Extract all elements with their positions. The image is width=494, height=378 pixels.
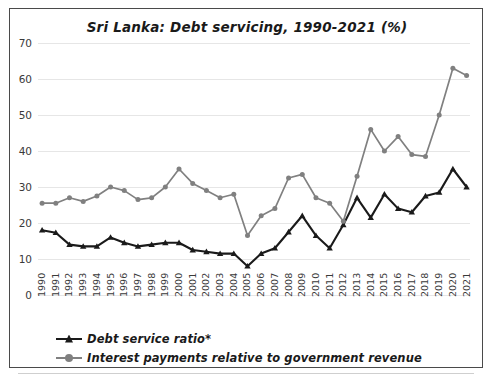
legend-item-debt-service-ratio: Debt service ratio* <box>56 329 456 348</box>
data-point <box>355 174 360 179</box>
x-axis-tick-label: 2017 <box>407 273 417 297</box>
x-axis-tick-label: 2008 <box>284 273 294 297</box>
x-axis-tick-label: 2012 <box>339 273 349 297</box>
data-point <box>341 219 346 224</box>
chart-title: Sri Lanka: Debt servicing, 1990-2021 (%) <box>10 19 484 35</box>
x-axis-tick-label: 2003 <box>215 273 225 297</box>
x-axis-tick-label: 1993 <box>78 273 88 297</box>
data-point <box>190 181 195 186</box>
data-point <box>381 191 387 197</box>
data-point <box>272 206 277 211</box>
legend-label: Interest payments relative to government… <box>87 351 422 365</box>
data-point <box>177 167 182 172</box>
data-point <box>107 234 113 240</box>
data-point <box>122 188 127 193</box>
x-axis-tick-label: 2014 <box>366 273 376 297</box>
y-axis-tick-label: 20 <box>19 217 32 229</box>
x-axis-tick-label: 2001 <box>188 273 198 297</box>
y-axis-tick-label: 40 <box>19 145 32 157</box>
x-axis-tick-label: 1994 <box>92 273 102 297</box>
chart-frame: Sri Lanka: Debt servicing, 1990-2021 (%)… <box>9 8 483 368</box>
legend-divider <box>18 373 474 374</box>
legend-marker-circle-icon <box>56 352 82 364</box>
x-axis-tick-label: 2007 <box>270 273 280 297</box>
data-point <box>231 192 236 197</box>
x-axis-tick-label: 2005 <box>243 273 253 297</box>
x-axis-tick-label: 2010 <box>311 273 321 297</box>
data-point <box>313 195 318 200</box>
x-axis-tick-label: 2006 <box>256 273 266 297</box>
x-axis-tick-label: 2013 <box>352 273 362 297</box>
data-point <box>135 197 140 202</box>
data-point <box>163 185 168 190</box>
x-axis-tick-label: 1998 <box>147 273 157 297</box>
gridline <box>38 295 470 296</box>
data-point <box>286 176 291 181</box>
plot-area: 010203040506070 <box>38 43 470 295</box>
data-point <box>450 66 455 71</box>
x-axis-tick-label: 2015 <box>380 273 390 297</box>
x-axis-tick-label: 2011 <box>325 273 335 297</box>
y-axis-tick-label: 70 <box>19 37 32 49</box>
y-axis-tick-label: 10 <box>19 253 32 265</box>
data-point <box>368 127 373 132</box>
x-axis-tick-label: 2002 <box>202 273 212 297</box>
x-axis-tick-label: 1999 <box>161 273 171 297</box>
data-point <box>53 201 58 206</box>
x-axis-tick-label: 1997 <box>133 273 143 297</box>
y-axis-tick-label: 50 <box>19 109 32 121</box>
data-point <box>218 195 223 200</box>
x-axis-tick-label: 1995 <box>106 273 116 297</box>
data-point <box>409 152 414 157</box>
data-point <box>396 134 401 139</box>
data-point <box>259 213 264 218</box>
data-point <box>108 185 113 190</box>
data-point <box>245 233 250 238</box>
y-axis-tick-label: 0 <box>25 289 32 301</box>
x-axis-tick-label: 2004 <box>229 273 239 297</box>
data-point <box>423 154 428 159</box>
data-point <box>40 201 45 206</box>
x-axis-tick-label: 1991 <box>51 273 61 297</box>
x-axis-tick-label: 2016 <box>393 273 403 297</box>
data-point <box>149 195 154 200</box>
x-axis-tick-label: 1990 <box>37 273 47 297</box>
data-point <box>299 213 305 219</box>
data-point <box>464 73 469 78</box>
x-axis-tick-label: 1996 <box>120 273 130 297</box>
legend-label: Debt service ratio* <box>87 332 211 346</box>
data-point <box>450 166 456 172</box>
data-point <box>204 188 209 193</box>
x-axis-tick-label: 2018 <box>421 273 431 297</box>
data-point <box>67 195 72 200</box>
x-axis-tick-label: 2020 <box>448 273 458 297</box>
data-point <box>94 194 99 199</box>
series-layer <box>38 43 470 295</box>
data-point <box>300 172 305 177</box>
x-axis-tick-label: 2021 <box>462 273 472 297</box>
y-axis-tick-label: 30 <box>19 181 32 193</box>
data-point <box>382 149 387 154</box>
x-axis-tick-label: 1992 <box>65 273 75 297</box>
legend-marker-triangle-icon <box>56 333 82 345</box>
chart-svg <box>38 43 470 295</box>
series-line <box>42 169 466 266</box>
chart-legend: Debt service ratio* Interest payments re… <box>56 329 456 367</box>
x-axis-tick-label: 2009 <box>298 273 308 297</box>
x-axis-tick-label: 2000 <box>174 273 184 297</box>
data-point <box>81 199 86 204</box>
data-point <box>437 113 442 118</box>
legend-item-interest-payments: Interest payments relative to government… <box>56 348 456 367</box>
series-1 <box>39 166 470 269</box>
y-axis-tick-label: 60 <box>19 73 32 85</box>
series-2 <box>40 66 469 238</box>
data-point <box>354 195 360 201</box>
x-axis-tick-label: 2019 <box>434 273 444 297</box>
data-point <box>327 201 332 206</box>
